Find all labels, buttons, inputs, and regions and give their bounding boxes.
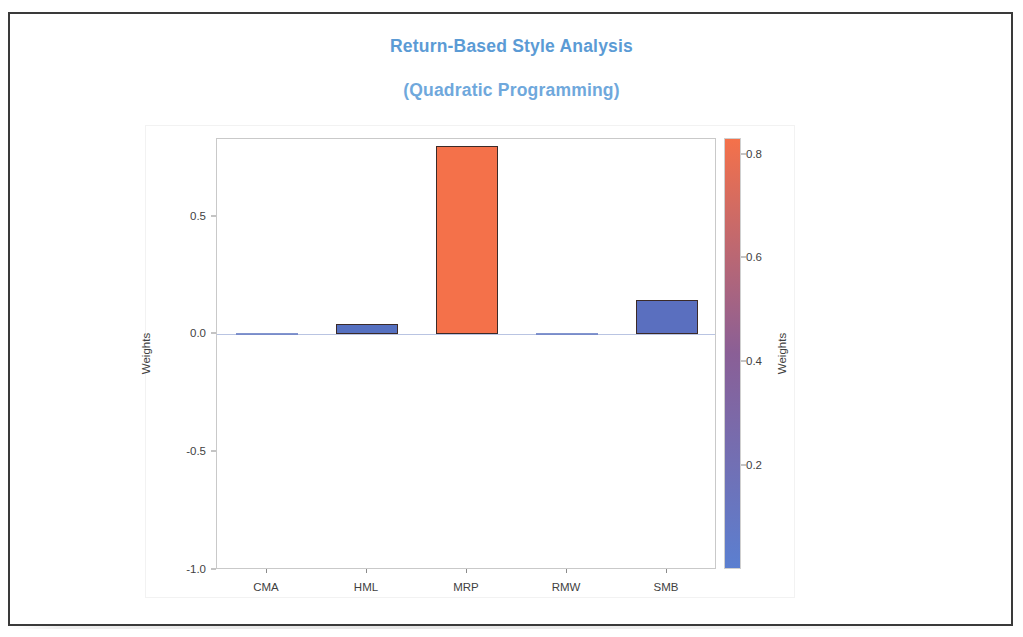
x-axis: CMAHMLMRPRMWSMB [216,569,716,599]
colorbar-tick-label: 0.8 [746,148,762,160]
y-axis-label: Weights [140,138,160,569]
y-tick-label: -0.5 [186,445,206,457]
x-tick-label: MRP [453,581,479,593]
x-tick-mark [466,569,467,573]
x-tick-label: HML [354,581,378,593]
colorbar-tick-label: 0.4 [746,355,762,367]
colorbar-tick-mark [741,361,746,362]
colorbar-tick-label: 0.6 [746,251,762,263]
bar-cma [236,333,298,335]
x-tick-label: SMB [654,581,679,593]
colorbar-gradient [724,138,741,569]
x-tick-mark [366,569,367,573]
x-tick-label: CMA [253,581,279,593]
bar-rmw [536,333,598,335]
x-tick-mark [266,569,267,573]
y-tick-label: -1.0 [186,563,206,575]
figure-canvas: 0.50.0-0.5-1.0 Weights CMAHMLMRPRMWSMB W… [145,125,795,598]
colorbar-label: Weights [776,138,794,569]
colorbar-tick-mark [741,153,746,154]
colorbar: Weights 0.80.60.40.2 [724,138,804,569]
colorbar-tick-mark [741,257,746,258]
bar-mrp [436,146,498,334]
y-tick-label: 0.5 [190,210,206,222]
colorbar-tick-mark [741,465,746,466]
y-tick-label: 0.0 [190,327,206,339]
plot-area [216,138,716,569]
scan-artifact-line [10,626,1013,629]
bar-hml [336,324,398,335]
bar-smb [636,300,698,334]
x-tick-mark [666,569,667,573]
colorbar-tick-label: 0.2 [746,459,762,471]
x-tick-mark [566,569,567,573]
x-tick-label: RMW [552,581,581,593]
